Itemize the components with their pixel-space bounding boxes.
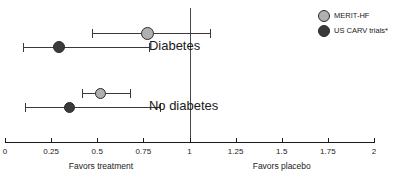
legend-item: MERIT-HF	[318, 8, 388, 23]
confidence-interval-cap	[210, 29, 211, 38]
null-effect-line	[190, 8, 191, 142]
x-axis-tick	[236, 138, 237, 143]
x-axis-tick-label: 0.75	[135, 147, 151, 156]
x-axis-tick	[374, 138, 375, 143]
legend-swatch-icon	[318, 25, 330, 37]
x-axis-tick	[282, 138, 283, 143]
confidence-interval-line	[23, 47, 148, 48]
x-axis-tick	[51, 138, 52, 143]
forest-plot: DiabetesNo diabetes 00.250.50.7511.251.5…	[0, 0, 393, 185]
x-axis-tick	[190, 138, 191, 143]
axis-annotation: Favors treatment	[69, 161, 133, 171]
x-axis-tick	[328, 138, 329, 143]
estimate-marker	[64, 102, 75, 113]
confidence-interval-cap	[130, 89, 131, 98]
legend: MERIT-HFUS CARV trials*	[318, 8, 388, 38]
confidence-interval-cap	[25, 103, 26, 112]
x-axis-tick-label: 1.75	[320, 147, 336, 156]
legend-swatch-icon	[318, 10, 330, 22]
group-label: Diabetes	[149, 38, 200, 53]
confidence-interval-line	[82, 93, 130, 94]
x-axis-tick	[143, 138, 144, 143]
legend-item: US CARV trials*	[318, 23, 388, 38]
group-label: No diabetes	[149, 98, 218, 113]
x-axis-tick-label: 1	[187, 147, 192, 156]
legend-label: US CARV trials*	[334, 26, 388, 35]
x-axis-tick	[97, 138, 98, 143]
confidence-interval-cap	[23, 43, 24, 52]
confidence-interval-cap	[82, 89, 83, 98]
x-axis-tick-label: 0.25	[43, 147, 59, 156]
x-axis-tick-label: 1.25	[228, 147, 244, 156]
x-axis-tick-label: 0	[3, 147, 8, 156]
axis-annotation: Favors placebo	[253, 161, 311, 171]
x-axis-tick-label: 1.5	[276, 147, 287, 156]
x-axis-tick-label: 0.5	[92, 147, 103, 156]
confidence-interval-line	[25, 107, 160, 108]
x-axis-tick-label: 2	[372, 147, 377, 156]
estimate-marker	[95, 88, 106, 99]
confidence-interval-cap	[92, 29, 93, 38]
x-axis-tick	[5, 138, 6, 143]
legend-label: MERIT-HF	[334, 11, 369, 20]
estimate-marker	[53, 41, 65, 53]
